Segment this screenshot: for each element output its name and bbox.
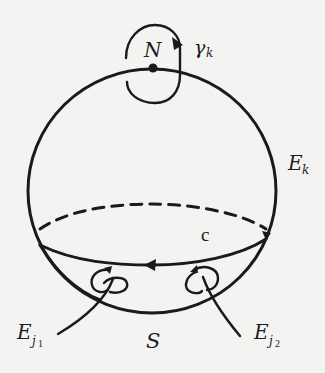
label-gamma-sub: k [206,46,213,60]
label-equator-c: c [201,224,209,245]
ej2-arrow-icon [190,265,198,273]
label-ej1-e: E [16,320,32,344]
equator-arrow-icon [144,259,156,271]
equator-back-dashed [40,204,266,229]
label-ej1-1: 1 [38,338,43,349]
north-pole-point [149,64,158,73]
label-south-pole: S [146,329,160,353]
label-ej2-e: E [253,320,269,344]
label-cap-sub: k [302,163,309,177]
ej1-leader-line [58,279,113,334]
left-lower-curve [40,245,100,300]
label-ej2-2: 2 [275,338,280,349]
label-cap-e: E [287,151,303,175]
ej2-loop [186,267,218,293]
label-gamma: γ [194,36,206,58]
label-north-pole: N [143,38,163,62]
sphere-diagram: N γ k E k c S E j 1 E j 2 [0,0,325,373]
ej2-leader-line [203,277,240,336]
